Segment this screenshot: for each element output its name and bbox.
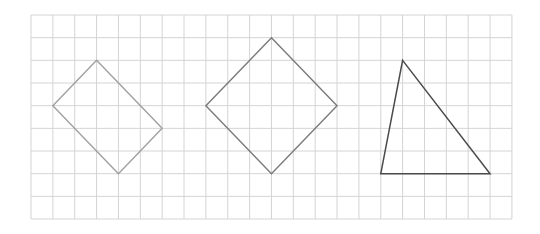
rectangle-shape: [53, 60, 162, 173]
grid-diagram: [0, 0, 540, 234]
diagram-canvas: [0, 0, 540, 234]
grid-lines: [31, 15, 512, 219]
triangle-shape: [381, 60, 490, 173]
